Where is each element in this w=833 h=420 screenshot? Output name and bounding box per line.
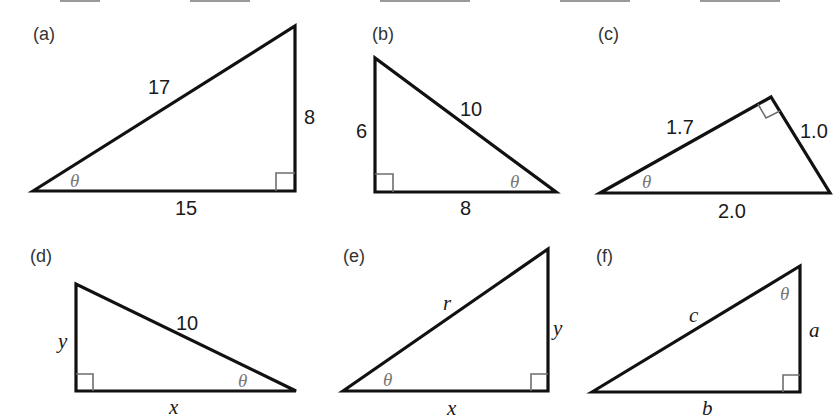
right-angle-mark-f [783, 375, 800, 392]
panel-c: (c) 1.7 1.0 2.0 θ [598, 24, 830, 222]
side-label-adjacent-f: a [809, 318, 820, 342]
triangle-d [76, 284, 296, 391]
theta-a: θ [70, 170, 79, 191]
right-angle-mark-b [375, 174, 393, 192]
side-label-adjacent-e: x [446, 396, 457, 420]
side-label-opposite-e: y [551, 316, 563, 340]
right-angle-mark-a [276, 173, 295, 191]
right-angle-mark-d [76, 374, 93, 391]
triangle-a [33, 26, 295, 191]
side-label-adjacent-c: 1.7 [666, 116, 694, 138]
panel-a: (a) 17 8 15 θ [33, 24, 315, 219]
theta-c: θ [642, 171, 651, 192]
side-label-opposite-f: b [702, 396, 713, 420]
side-label-hypotenuse-e: r [443, 291, 452, 315]
panel-e: (e) r y x θ [343, 246, 563, 420]
side-label-hypotenuse-b: 10 [460, 98, 482, 120]
theta-f: θ [780, 283, 789, 304]
theta-d: θ [238, 370, 247, 391]
triangle-b [375, 58, 556, 192]
side-label-opposite-b: 6 [356, 120, 367, 142]
side-label-adjacent-b: 8 [460, 197, 471, 219]
right-angle-mark-e [531, 374, 548, 391]
theta-e: θ [383, 369, 392, 390]
side-label-hypotenuse-a: 17 [148, 76, 170, 98]
side-label-opposite-c: 1.0 [800, 120, 828, 142]
panel-label-d: (d) [30, 246, 52, 266]
side-label-adjacent-a: 15 [175, 197, 197, 219]
panel-b: (b) 10 6 8 θ [356, 24, 556, 219]
panel-label-e: (e) [343, 246, 365, 266]
right-triangle-figure: (a) 17 8 15 θ (b) 10 6 8 θ (c) 1.7 1.0 2… [0, 0, 833, 420]
side-label-adjacent-d: x [168, 395, 179, 419]
side-label-hypotenuse-d: 10 [176, 312, 198, 334]
panel-label-f: (f) [596, 246, 613, 266]
panel-f: (f) c a b θ [592, 246, 820, 420]
side-label-opposite-a: 8 [304, 106, 315, 128]
side-label-hypotenuse-f: c [689, 303, 699, 327]
panel-label-c: (c) [598, 24, 619, 44]
side-label-hypotenuse-c: 2.0 [718, 200, 746, 222]
panel-label-a: (a) [33, 24, 55, 44]
triangle-e [343, 249, 548, 391]
panel-d: (d) 10 y x θ [30, 246, 296, 419]
triangle-f [592, 266, 800, 392]
panel-label-b: (b) [372, 24, 394, 44]
theta-b: θ [510, 171, 519, 192]
triangle-c [600, 97, 830, 193]
side-label-opposite-d: y [56, 329, 68, 353]
